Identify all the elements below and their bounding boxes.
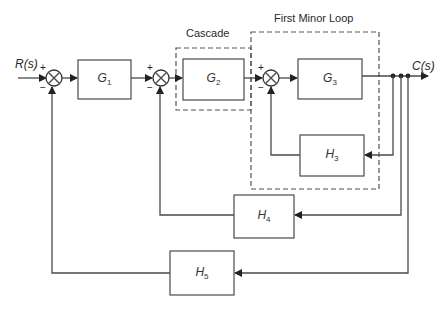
block-h5-label: H5 <box>170 265 234 281</box>
block-h4-label: H4 <box>234 208 294 224</box>
block-diagram: R(s) C(s) Cascade First Minor Loop G1 G2… <box>0 0 446 311</box>
sum3-plus-sign: + <box>258 62 264 73</box>
block-g3-label: G3 <box>298 71 362 87</box>
summing-junction-3 <box>263 70 279 86</box>
input-label: R(s) <box>15 57 38 71</box>
minor-loop-label: First Minor Loop <box>274 12 353 24</box>
feedback-wire-h5-out <box>52 87 170 273</box>
cascade-label: Cascade <box>186 27 229 39</box>
feedback-wire-h3-out <box>271 87 300 155</box>
block-g2-label: G2 <box>183 71 244 87</box>
sum2-minus-sign: − <box>147 82 153 93</box>
output-label: C(s) <box>412 59 435 73</box>
sum2-plus-sign: + <box>147 62 153 73</box>
block-g1-label: G1 <box>78 71 131 87</box>
sum3-minus-sign: − <box>258 82 264 93</box>
summing-junction-2 <box>153 70 169 86</box>
feedback-wire-h4-out <box>160 87 234 215</box>
summing-junction-1 <box>46 70 62 86</box>
block-h3-label: H3 <box>300 147 364 163</box>
sum1-plus-sign: + <box>40 62 46 73</box>
sum1-minus-sign: − <box>40 82 46 93</box>
